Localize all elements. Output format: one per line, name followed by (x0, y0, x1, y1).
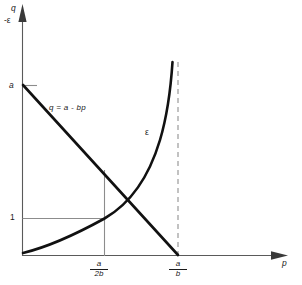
fraction-numerator: a (169, 260, 187, 268)
fraction-denominator: b (169, 270, 187, 278)
fraction-numerator: a (90, 260, 108, 268)
demand-curve-label: q = a - bp (49, 104, 86, 112)
elasticity-demand-figure: q -ε p a 1 q = a - bp ε a 2b a b (0, 0, 302, 285)
y-axis-label-epsilon: -ε (4, 16, 11, 25)
x-tick-label-a-over-b: a b (169, 260, 187, 279)
x-tick-label-a-over-2b: a 2b (90, 260, 108, 279)
y-tick-label-a: a (9, 81, 14, 90)
elasticity-curve-label: ε (145, 128, 149, 137)
demand-curve (23, 85, 178, 255)
y-axis-label-q: q (11, 4, 16, 13)
x-axis-label-p: p (282, 259, 287, 268)
fraction-denominator: 2b (90, 270, 108, 278)
plot-canvas (0, 0, 302, 285)
y-tick-label-one: 1 (10, 213, 15, 222)
x-axis (23, 251, 289, 260)
